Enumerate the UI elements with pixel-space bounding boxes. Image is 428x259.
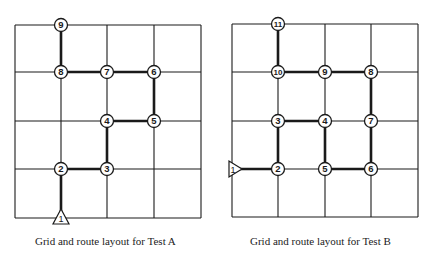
caption-test-b: Grid and route layout for Test B bbox=[250, 235, 391, 247]
node-5: 5 bbox=[148, 115, 161, 128]
svg-text:11: 11 bbox=[274, 20, 283, 29]
node-8: 8 bbox=[365, 66, 378, 79]
svg-text:6: 6 bbox=[151, 66, 156, 77]
svg-text:7: 7 bbox=[104, 66, 109, 77]
node-3: 3 bbox=[101, 163, 114, 176]
node-3: 3 bbox=[272, 115, 285, 128]
node-6: 6 bbox=[365, 163, 378, 176]
node-6: 6 bbox=[148, 66, 161, 79]
node-8: 8 bbox=[55, 66, 68, 79]
svg-text:5: 5 bbox=[151, 115, 157, 126]
node-7: 7 bbox=[365, 115, 378, 128]
caption-test-a: Grid and route layout for Test A bbox=[35, 235, 176, 247]
svg-text:1: 1 bbox=[58, 214, 63, 224]
svg-text:4: 4 bbox=[104, 115, 110, 126]
node-9: 9 bbox=[319, 66, 332, 79]
route-diagrams: 1234567891234567891011 bbox=[0, 0, 428, 259]
diagram-test-a: 123456789 bbox=[15, 19, 201, 225]
svg-text:10: 10 bbox=[274, 68, 283, 77]
node-11: 11 bbox=[272, 18, 285, 31]
node-7: 7 bbox=[101, 66, 114, 79]
svg-text:6: 6 bbox=[368, 163, 373, 174]
svg-text:3: 3 bbox=[104, 163, 109, 174]
svg-text:8: 8 bbox=[368, 66, 373, 77]
svg-text:8: 8 bbox=[58, 66, 63, 77]
svg-text:2: 2 bbox=[275, 163, 280, 174]
start-marker: 1 bbox=[229, 161, 242, 177]
node-4: 4 bbox=[319, 115, 332, 128]
svg-text:1: 1 bbox=[230, 165, 235, 175]
start-marker: 1 bbox=[53, 209, 69, 224]
node-2: 2 bbox=[272, 163, 285, 176]
node-9: 9 bbox=[55, 19, 68, 32]
svg-text:2: 2 bbox=[58, 163, 63, 174]
svg-text:7: 7 bbox=[368, 115, 373, 126]
node-5: 5 bbox=[319, 163, 332, 176]
route-path bbox=[232, 24, 371, 169]
svg-text:4: 4 bbox=[322, 115, 328, 126]
node-4: 4 bbox=[101, 115, 114, 128]
svg-text:3: 3 bbox=[275, 115, 280, 126]
svg-text:9: 9 bbox=[58, 19, 63, 30]
node-10: 10 bbox=[272, 66, 285, 79]
node-2: 2 bbox=[55, 163, 68, 176]
diagram-test-b: 1234567891011 bbox=[229, 18, 418, 218]
svg-text:5: 5 bbox=[322, 163, 328, 174]
svg-text:9: 9 bbox=[322, 66, 327, 77]
